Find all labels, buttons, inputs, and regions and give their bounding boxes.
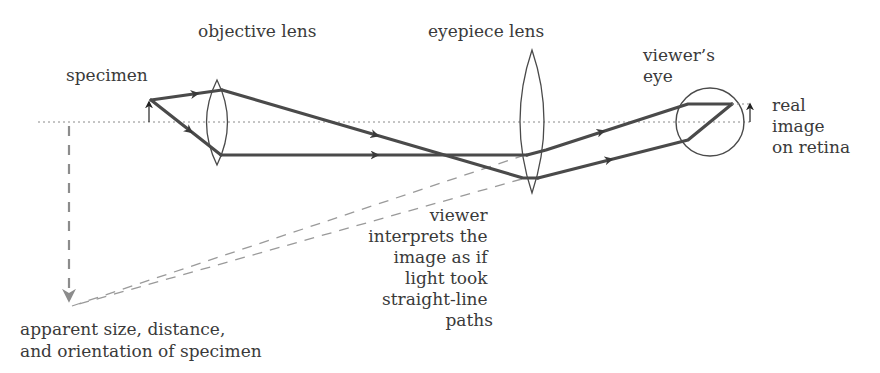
ray-upper-segment-2 (222, 90, 538, 178)
label-objective-lens: objective lens (198, 21, 316, 41)
ray-lower-segment-1 (151, 100, 221, 155)
label-interpretation: viewer interprets the image as if light … (368, 205, 493, 330)
label-specimen: specimen (66, 65, 148, 85)
label-eyepiece-lens: eyepiece lens (428, 21, 544, 41)
label-apparent: apparent size, distance, and orientation… (20, 319, 262, 361)
ray-from-eyepiece-lower (538, 104, 732, 178)
microscope-diagram: specimen objective lens eyepiece lens vi… (0, 0, 880, 373)
label-viewers-eye: viewer’s eye (642, 45, 720, 86)
label-real-image: real image on retina (772, 95, 850, 157)
